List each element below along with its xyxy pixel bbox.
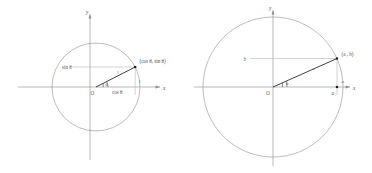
point-marker <box>336 57 338 59</box>
x-axis-label: x <box>352 85 356 91</box>
point-coordinate-label: (a , b) <box>342 51 354 58</box>
y-axis-arrow-icon <box>272 10 275 14</box>
b-leg-label: b <box>243 56 246 62</box>
y-axis-arrow-icon <box>89 14 92 18</box>
sine-leg-label: sin θ <box>62 64 72 70</box>
angle-label: θ <box>286 81 288 86</box>
radius-segment <box>96 67 135 87</box>
y-axis-label: y <box>268 5 272 11</box>
origin-label: O <box>91 90 95 96</box>
x-axis-arrow-icon <box>346 86 350 89</box>
foot-marker <box>336 86 338 88</box>
point-coordinate-label: (cos θ, sin θ) <box>140 58 166 65</box>
x-axis-arrow-icon <box>156 86 160 89</box>
trigonometry-figure: x y O θ sin θ cos θ (cos θ, sin θ) 1 1 <box>0 0 372 173</box>
general-circle-diagram: x y O θ b a (a , b) a a <box>186 0 372 173</box>
cosine-leg-label: cos θ <box>112 89 123 95</box>
radius-length-label: 1 <box>117 70 120 75</box>
unit-circle-diagram: x y O θ sin θ cos θ (cos θ, sin θ) 1 1 <box>0 0 186 173</box>
origin-label: O <box>266 90 270 96</box>
angle-label: θ <box>106 82 108 87</box>
y-axis-label: y <box>85 9 89 15</box>
point-marker <box>134 66 136 68</box>
a-leg-label: a <box>332 90 335 96</box>
radius-segment <box>273 59 337 88</box>
x-axis-label: x <box>162 85 166 91</box>
above-axis-label: a <box>342 79 345 84</box>
vertical-segment-length-label: 1 <box>139 79 142 84</box>
